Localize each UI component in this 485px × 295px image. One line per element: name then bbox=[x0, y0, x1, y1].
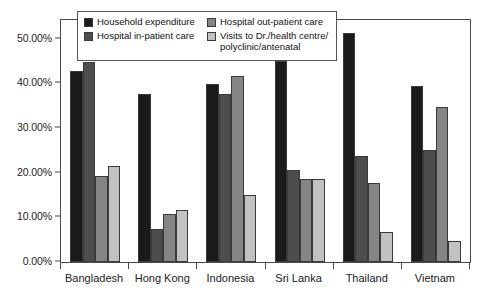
legend-label: Hospital in-patient care bbox=[97, 30, 194, 42]
y-axis-tick-label: 30.00% bbox=[17, 121, 52, 133]
x-axis-tick-label: Hong Kong bbox=[135, 272, 190, 284]
bar bbox=[206, 84, 219, 262]
legend-swatch-icon bbox=[84, 32, 93, 41]
y-axis-tick-label: 40.00% bbox=[17, 76, 52, 88]
x-axis-tick-label: Sri Lanka bbox=[275, 272, 321, 284]
x-axis-tick-mark bbox=[469, 263, 470, 269]
legend-swatch-icon bbox=[84, 18, 93, 27]
bar bbox=[83, 62, 96, 262]
legend-item[interactable]: Household expenditure bbox=[84, 16, 207, 28]
legend-column-left: Household expenditureHospital in-patient… bbox=[84, 16, 207, 55]
bar bbox=[312, 179, 325, 262]
bar bbox=[355, 156, 368, 262]
x-axis-tick-label: Thailand bbox=[346, 272, 388, 284]
x-axis: BangladeshHong KongIndonesiaSri LankaTha… bbox=[60, 266, 471, 292]
bar bbox=[108, 166, 121, 262]
x-axis-tick-label: Indonesia bbox=[207, 272, 255, 284]
bar bbox=[287, 170, 300, 262]
x-axis-tick-label: Bangladesh bbox=[65, 272, 123, 284]
bar bbox=[231, 76, 244, 262]
bar bbox=[138, 94, 151, 262]
bar bbox=[176, 210, 189, 262]
bar bbox=[300, 179, 313, 262]
legend-label: Hospital out-patient care bbox=[220, 16, 323, 28]
y-axis-tick-label: 50.00% bbox=[17, 32, 52, 44]
bar bbox=[380, 232, 393, 262]
legend-label: Visits to Dr./health centre/ polyclinic/… bbox=[220, 30, 328, 53]
legend-swatch-icon bbox=[207, 32, 216, 41]
bar bbox=[436, 107, 449, 262]
x-axis-tick-mark bbox=[333, 263, 334, 269]
x-axis-tick-mark bbox=[196, 263, 197, 269]
x-axis-tick-mark bbox=[265, 263, 266, 269]
x-axis-tick-mark bbox=[128, 263, 129, 269]
legend-column-right: Hospital out-patient careVisits to Dr./h… bbox=[207, 16, 330, 55]
y-axis-tick-label: 20.00% bbox=[17, 166, 52, 178]
legend-item[interactable]: Hospital in-patient care bbox=[84, 30, 207, 42]
bar bbox=[275, 61, 288, 262]
chart-legend: Household expenditureHospital in-patient… bbox=[77, 11, 337, 61]
bar bbox=[368, 183, 381, 262]
legend-item[interactable]: Visits to Dr./health centre/ polyclinic/… bbox=[207, 30, 330, 53]
y-axis-tick-label: 0.00% bbox=[23, 255, 52, 267]
bar bbox=[343, 33, 356, 262]
legend-swatch-icon bbox=[207, 18, 216, 27]
y-axis-tick-label: 10.00% bbox=[17, 210, 52, 222]
bar bbox=[151, 229, 164, 262]
y-axis: 0.00%10.00%20.00%30.00%40.00%50.00% bbox=[0, 19, 58, 263]
bar bbox=[70, 71, 83, 262]
legend-label: Household expenditure bbox=[97, 16, 195, 28]
x-axis-tick-label: Vietnam bbox=[415, 272, 455, 284]
x-axis-tick-mark bbox=[401, 263, 402, 269]
bar-chart: 0.00%10.00%20.00%30.00%40.00%50.00% Bang… bbox=[0, 0, 485, 295]
x-axis-tick-mark bbox=[60, 263, 61, 269]
bar bbox=[448, 241, 461, 262]
legend-item[interactable]: Hospital out-patient care bbox=[207, 16, 330, 28]
bar bbox=[423, 150, 436, 262]
bar bbox=[244, 195, 257, 262]
bar bbox=[163, 214, 176, 262]
legend-grid: Household expenditureHospital in-patient… bbox=[84, 16, 330, 55]
bar bbox=[95, 176, 108, 262]
bar bbox=[219, 94, 232, 262]
bar bbox=[411, 86, 424, 262]
